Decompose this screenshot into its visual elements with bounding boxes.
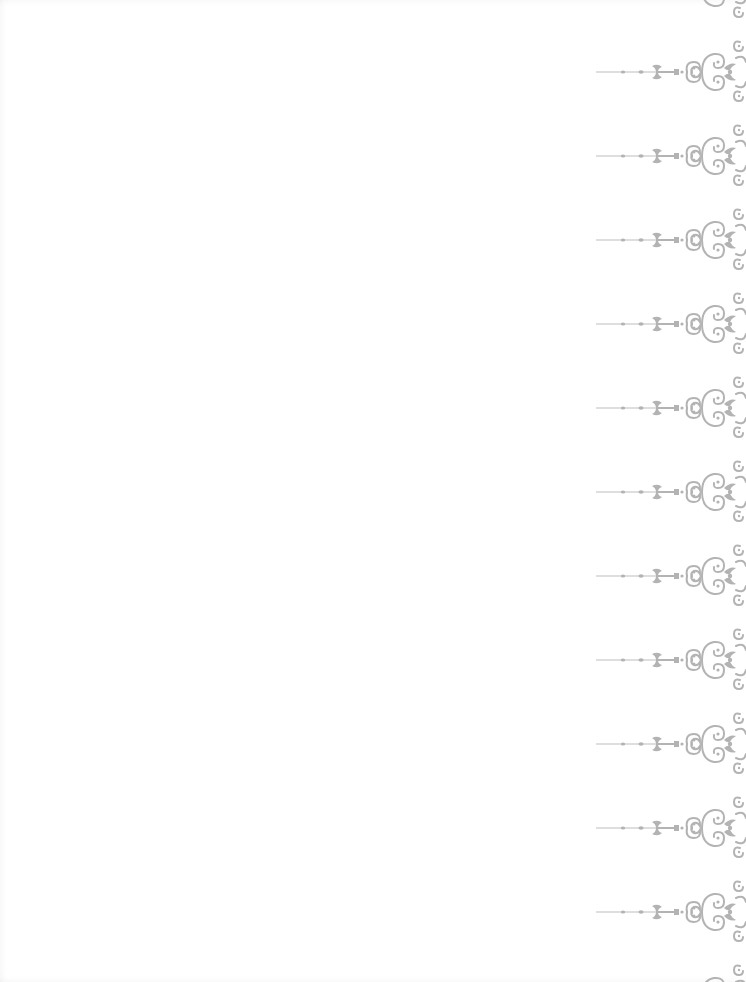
blank-writing-area bbox=[0, 0, 590, 982]
filigree-scroll-icon bbox=[590, 702, 746, 786]
filigree-scroll-icon bbox=[590, 450, 746, 534]
filigree-scroll-icon bbox=[590, 114, 746, 198]
filigree-scroll-icon bbox=[590, 30, 746, 114]
stationery-page bbox=[0, 0, 746, 982]
filigree-scroll-icon bbox=[590, 0, 746, 30]
filigree-scroll-icon bbox=[590, 366, 746, 450]
filigree-scroll-icon bbox=[590, 870, 746, 954]
filigree-scroll-icon bbox=[590, 954, 746, 982]
filigree-scroll-icon bbox=[590, 618, 746, 702]
filigree-scroll-icon bbox=[590, 534, 746, 618]
filigree-scroll-icon bbox=[590, 786, 746, 870]
filigree-scroll-icon bbox=[590, 198, 746, 282]
filigree-scroll-icon bbox=[590, 282, 746, 366]
decorative-border bbox=[590, 0, 746, 982]
